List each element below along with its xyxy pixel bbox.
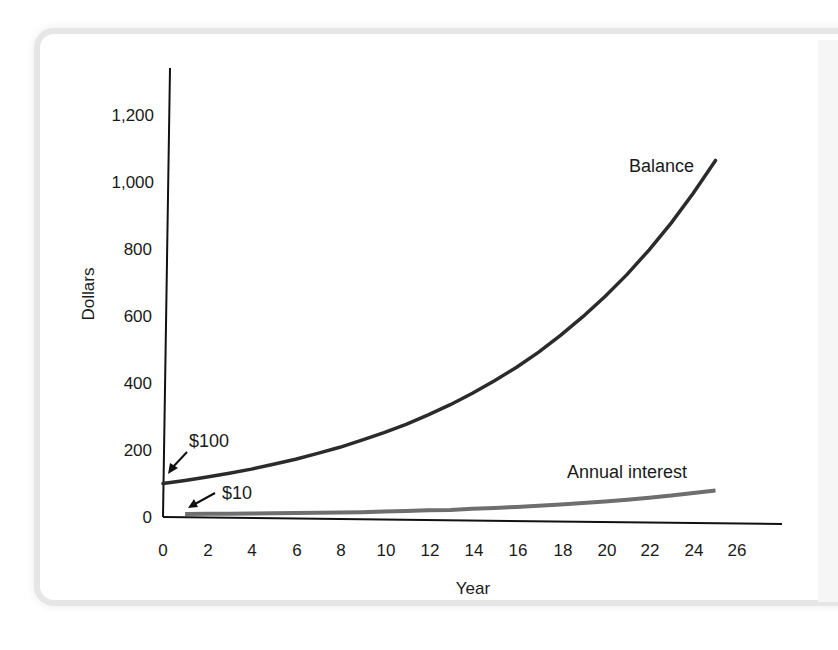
- y-tick-label: 400: [124, 374, 152, 393]
- start-balance-label: $100: [189, 431, 229, 451]
- annual-interest-label: Annual interest: [567, 462, 687, 482]
- y-tick-label: 0: [143, 508, 152, 527]
- arrow-icon: [188, 493, 215, 508]
- x-axis: [163, 517, 782, 524]
- x-tick-label: 18: [554, 541, 573, 560]
- start-interest-label: $10: [222, 483, 252, 503]
- x-tick-label: 24: [685, 541, 704, 560]
- y-axis: [163, 68, 170, 517]
- x-tick-label: 6: [292, 541, 301, 560]
- arrow-icon: [168, 452, 187, 474]
- x-tick-label: 20: [598, 541, 617, 560]
- x-axis-title: Year: [456, 579, 491, 598]
- balance-label: Balance: [629, 156, 694, 176]
- x-tick-label: 0: [158, 541, 167, 560]
- x-tick-label: 10: [377, 541, 396, 560]
- x-tick-label: 8: [336, 541, 345, 560]
- balance-line: [163, 160, 716, 483]
- y-tick-label: 800: [124, 240, 152, 259]
- y-tick-label: 600: [124, 307, 152, 326]
- x-tick-label: 22: [641, 541, 660, 560]
- page: 0 200 400 600 800 1,000 1,200 0 2 4 6 8 …: [0, 0, 838, 650]
- y-tick-label: 1,000: [111, 173, 154, 192]
- y-tick-label: 1,200: [111, 106, 154, 125]
- x-tick-label: 26: [728, 541, 747, 560]
- annual-interest-line: [185, 490, 715, 514]
- x-tick-label: 16: [509, 541, 528, 560]
- x-tick-labels: 0 2 4 6 8 10 12 14 16 18 20 22 24 26: [158, 541, 746, 560]
- y-axis-title: Dollars: [79, 268, 98, 321]
- y-tick-label: 200: [124, 441, 152, 460]
- x-tick-label: 12: [421, 541, 440, 560]
- x-tick-label: 2: [203, 541, 212, 560]
- x-tick-label: 14: [465, 541, 484, 560]
- line-chart: 0 200 400 600 800 1,000 1,200 0 2 4 6 8 …: [0, 0, 838, 650]
- x-tick-label: 4: [247, 541, 256, 560]
- y-tick-labels: 0 200 400 600 800 1,000 1,200: [111, 106, 154, 527]
